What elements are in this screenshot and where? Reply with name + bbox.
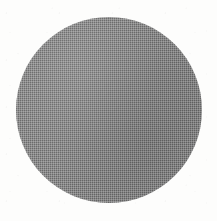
- disc-mottle-texture: [16, 17, 202, 203]
- figure-canvas: [0, 0, 217, 221]
- disc-rim-shading: [16, 17, 202, 203]
- gray-disc: [16, 17, 202, 203]
- disc-halftone-texture: [16, 17, 202, 203]
